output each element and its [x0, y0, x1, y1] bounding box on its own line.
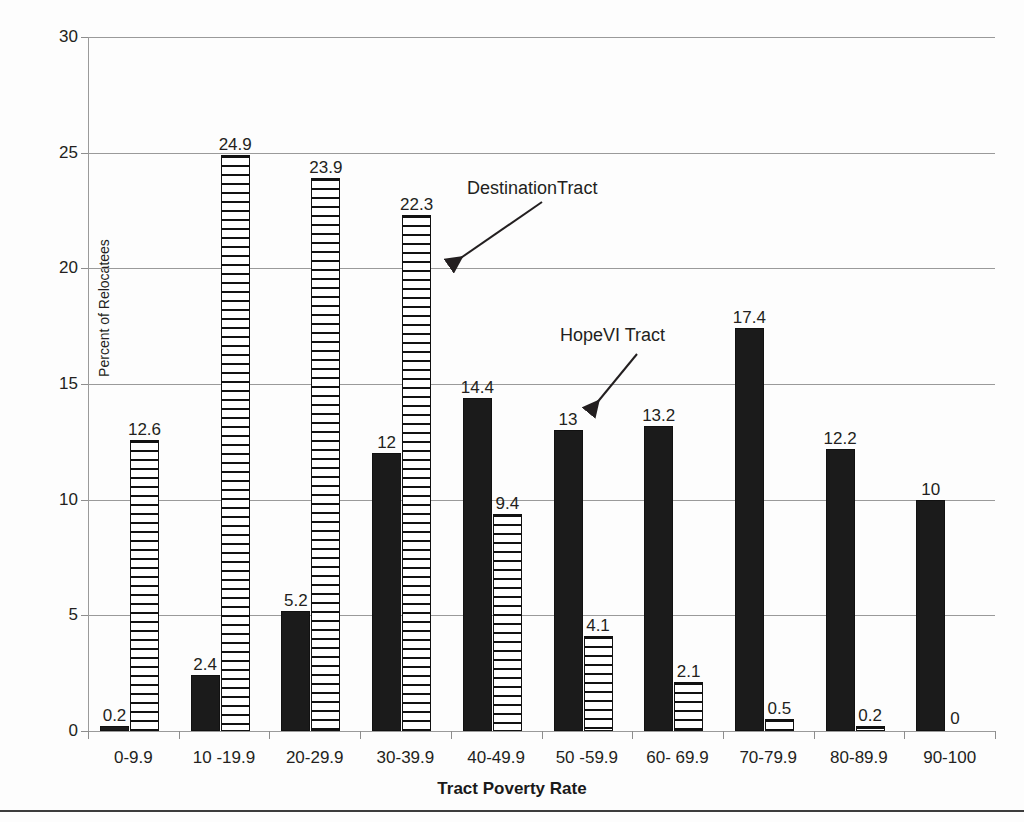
y-tick-label: 20: [59, 258, 78, 278]
bar-value-label: 4.1: [586, 617, 610, 634]
y-tick-label: 10: [59, 490, 78, 510]
bar-hopevi-tract-80-89.9: 12.2: [826, 449, 855, 731]
bar-value-label: 12.6: [128, 421, 161, 438]
x-tick-mark: [88, 731, 89, 739]
chart-page: Percent of Relocatees 051015202530 0.22.…: [0, 0, 1024, 822]
bar-value-label: 0.5: [768, 700, 792, 717]
x-category-label-90-100: 90-100: [904, 748, 995, 768]
bar-destinationtract-50-59.9: 4.1: [584, 636, 613, 731]
bar-hopevi-tract-90-100: 10: [916, 500, 945, 731]
bar-value-label: 0.2: [103, 707, 127, 724]
bar-value-label: 0.2: [858, 707, 882, 724]
x-tick-mark: [632, 731, 633, 739]
x-category-label-70-79.9: 70-79.9: [723, 748, 814, 768]
bar-value-label: 22.3: [400, 196, 433, 213]
annotation-hopevi-tract: HopeVI Tract: [560, 325, 665, 346]
bar-destinationtract-30-39.9: 22.3: [402, 215, 431, 731]
bar-destinationtract-70-79.9: 0.5: [765, 719, 794, 731]
bar-hopevi-tract-0-9.9: 0.2: [100, 726, 129, 731]
x-tick-mark: [451, 731, 452, 739]
y-tick-mark: [81, 37, 88, 38]
y-tick-label: 15: [59, 374, 78, 394]
x-category-label-40-49.9: 40-49.9: [451, 748, 542, 768]
bar-hopevi-tract-30-39.9: 12: [372, 453, 401, 731]
bar-destinationtract-60-69.9: 2.1: [674, 682, 703, 731]
bar-value-label: 24.9: [219, 136, 252, 153]
bar-value-label: 5.2: [284, 592, 308, 609]
arrow-hopevi-tract-icon: [575, 348, 665, 428]
bar-destinationtract-0-9.9: 12.6: [130, 440, 159, 731]
x-category-label-50-59.9: 50 -59.9: [542, 748, 633, 768]
x-category-label-20-29.9: 20-29.9: [269, 748, 360, 768]
x-tick-mark: [542, 731, 543, 739]
bar-hopevi-tract-20-29.9: 5.2: [281, 611, 310, 731]
x-category-label-30-39.9: 30-39.9: [360, 748, 451, 768]
y-tick-mark: [81, 153, 88, 154]
x-tick-mark: [995, 731, 996, 739]
arrow-destination-tract-icon: [430, 196, 550, 276]
x-axis-title: Tract Poverty Rate: [0, 779, 1024, 799]
y-tick-mark: [81, 384, 88, 385]
bar-hopevi-tract-70-79.9: 17.4: [735, 328, 764, 731]
bar-destinationtract-80-89.9: 0.2: [856, 726, 885, 731]
bar-value-label: 23.9: [309, 159, 342, 176]
x-tick-mark: [179, 731, 180, 739]
x-tick-mark: [269, 731, 270, 739]
y-tick-label: 5: [69, 605, 78, 625]
y-tick-mark: [81, 731, 88, 732]
bar-destinationtract-40-49.9: 9.4: [493, 514, 522, 731]
bar-value-label: 2.4: [193, 656, 217, 673]
x-category-label-10-19.9: 10 -19.9: [179, 748, 270, 768]
bar-hopevi-tract-10-19.9: 2.4: [191, 675, 220, 731]
y-tick-mark: [81, 500, 88, 501]
bar-value-label: 10: [921, 481, 940, 498]
bar-value-label: 9.4: [495, 495, 519, 512]
bar-value-label: 0: [950, 709, 959, 729]
x-tick-mark: [723, 731, 724, 739]
bar-value-label: 2.1: [677, 663, 701, 680]
bar-hopevi-tract-60-69.9: 13.2: [644, 426, 673, 731]
plot-area: 0.22.45.21214.41313.217.412.21012.624.92…: [88, 37, 995, 731]
y-tick-mark: [81, 615, 88, 616]
bar-value-label: 12.2: [824, 430, 857, 447]
bar-destinationtract-20-29.9: 23.9: [311, 178, 340, 731]
bar-value-label: 12: [377, 434, 396, 451]
bar-hopevi-tract-50-59.9: 13: [554, 430, 583, 731]
bar-value-label: 17.4: [733, 309, 766, 326]
bar-hopevi-tract-40-49.9: 14.4: [463, 398, 492, 731]
bar-destinationtract-10-19.9: 24.9: [221, 155, 250, 731]
footer-divider: [0, 810, 1024, 812]
x-tick-mark: [814, 731, 815, 739]
x-tick-mark: [360, 731, 361, 739]
x-category-label-0-9.9: 0-9.9: [88, 748, 179, 768]
bar-value-label: 14.4: [461, 379, 494, 396]
x-category-label-80-89.9: 80-89.9: [814, 748, 905, 768]
y-tick-label: 0: [69, 721, 78, 741]
y-tick-mark: [81, 268, 88, 269]
y-tick-label: 25: [59, 143, 78, 163]
x-tick-mark: [904, 731, 905, 739]
y-tick-label: 30: [59, 27, 78, 47]
x-category-label-60-69.9: 60- 69.9: [632, 748, 723, 768]
